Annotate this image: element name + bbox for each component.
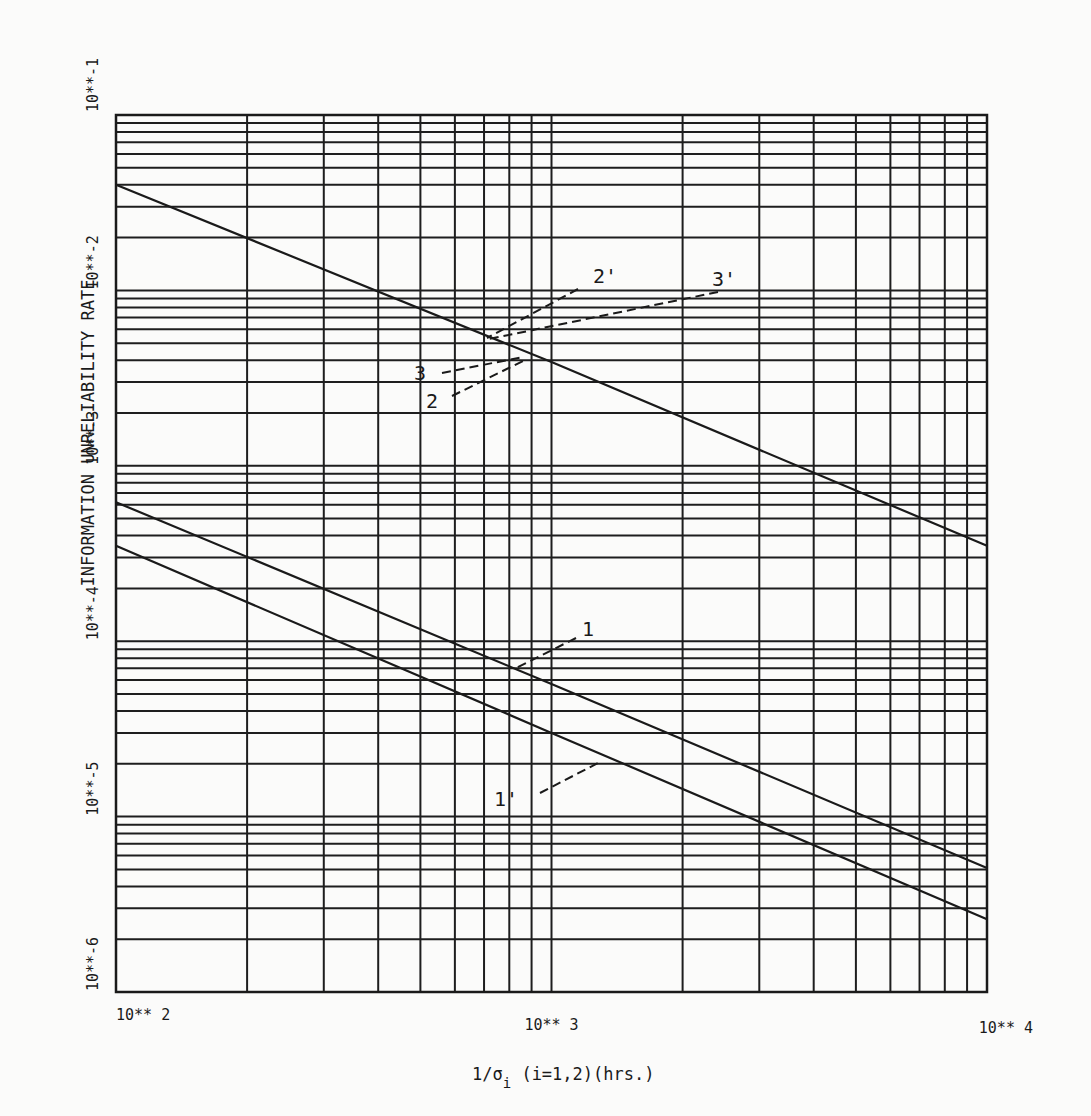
vertical-gridlines xyxy=(247,115,967,992)
annotation-label: 3' xyxy=(712,267,736,291)
annotation-label: 2 xyxy=(426,389,438,413)
annotation-label: 1 xyxy=(582,617,594,641)
x-tick-label: 10** 2 xyxy=(116,1006,170,1024)
x-axis-title: 1/σi (i=1,2)(hrs.) xyxy=(472,1064,654,1091)
x-tick-labels: 10** 210** 310** 4 xyxy=(116,1006,1033,1037)
y-tick-label: 10**-6 xyxy=(84,937,102,991)
y-axis-title: INFORMATION UNRELIABILITY RATE xyxy=(78,279,98,586)
x-axis-title-rest: (i=1,2)(hrs.) xyxy=(511,1064,654,1084)
y-tick-label: 10**-1 xyxy=(84,58,102,112)
y-tick-label: 10**-4 xyxy=(84,586,102,640)
x-tick-label: 10** 3 xyxy=(524,1016,578,1034)
annotation-label: 3 xyxy=(414,361,426,385)
annotation-label: 2' xyxy=(593,264,617,288)
annotation-leader xyxy=(540,763,598,793)
x-axis-title-sub: i xyxy=(503,1075,511,1091)
annotation-leader xyxy=(452,360,525,396)
annotations: 2'3'3211' xyxy=(414,264,736,811)
y-tick-label: 10**-5 xyxy=(84,762,102,816)
annotation-label: 1' xyxy=(494,787,518,811)
x-tick-label: 10** 4 xyxy=(979,1019,1033,1037)
log-log-chart: 2'3'3211' 10** 210** 310** 4 10**-110**-… xyxy=(0,0,1091,1116)
annotation-leader xyxy=(514,638,576,669)
x-axis-title-main: 1/σ xyxy=(472,1064,503,1084)
